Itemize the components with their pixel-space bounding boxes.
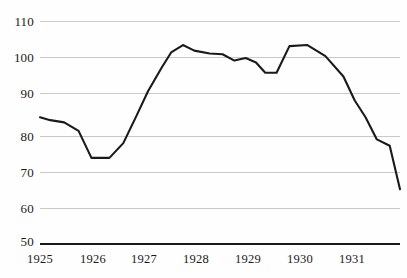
xtick-label-1925: 1925	[17, 252, 63, 267]
xtick-label-1928: 1928	[173, 252, 219, 267]
line-chart: 110 100 90 80 70 60 50 1925 1926 1927 19…	[0, 0, 407, 278]
plot-area: 110 100 90 80 70 60 50 1925 1926 1927 19…	[0, 0, 407, 278]
xtick-label-1927: 1927	[121, 252, 167, 267]
xtick-label-1929: 1929	[225, 252, 271, 267]
xtick-label-1930: 1930	[277, 252, 323, 267]
series-index-line	[0, 0, 407, 278]
xtick-label-1931: 1931	[329, 252, 375, 267]
xtick-label-1926: 1926	[70, 252, 116, 267]
